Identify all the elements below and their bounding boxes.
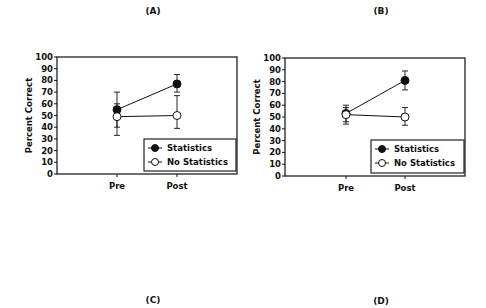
y-tick-label: 30: [269, 136, 281, 146]
series-line: [117, 116, 177, 117]
open-circle-marker: [173, 112, 181, 120]
y-tick-label: 90: [269, 65, 281, 75]
open-circle-marker: [379, 160, 386, 167]
x-tick-label: Post: [394, 183, 415, 193]
series-statistics: [113, 75, 181, 128]
x-tick-label: Pre: [109, 181, 125, 191]
y-tick-label: 10: [269, 159, 281, 169]
panel-label-d: (D): [373, 296, 389, 306]
y-tick-label: 50: [269, 112, 281, 122]
filled-circle-marker: [152, 145, 159, 152]
x-tick-label: Post: [166, 181, 187, 191]
y-axis-title: Percent Correct: [252, 79, 262, 154]
y-tick-label: 80: [41, 75, 53, 85]
legend: StatisticsNo Statistics: [144, 139, 236, 171]
y-tick-label: 70: [41, 87, 53, 97]
y-tick-label: 80: [269, 77, 281, 87]
y-axis: 0102030405060708090100: [263, 53, 285, 181]
legend-label: No Statistics: [167, 157, 228, 167]
series-line: [346, 80, 405, 113]
legend-label: Statistics: [167, 143, 212, 153]
series-no-statistics: [113, 96, 181, 136]
open-circle-marker: [113, 113, 121, 121]
series-line: [117, 84, 177, 110]
x-axis: PrePost: [338, 176, 416, 193]
y-tick-label: 20: [41, 146, 53, 156]
chart-b: 0102030405060708090100Percent CorrectPre…: [243, 0, 486, 200]
series-statistics: [342, 71, 409, 122]
legend-label: Statistics: [394, 144, 439, 154]
series-line: [346, 115, 405, 117]
legend-label: No Statistics: [394, 158, 455, 168]
open-circle-marker: [401, 113, 409, 121]
y-tick-label: 40: [269, 124, 281, 134]
y-tick-label: 50: [41, 111, 53, 121]
filled-circle-marker: [379, 146, 386, 153]
legend: StatisticsNo Statistics: [371, 140, 464, 173]
panel-label-c: (C): [146, 295, 161, 305]
y-tick-label: 20: [269, 147, 281, 157]
chart-a: 0102030405060708090100Percent CorrectPre…: [0, 0, 243, 200]
y-tick-label: 10: [41, 157, 53, 167]
y-tick-label: 70: [269, 88, 281, 98]
filled-circle-marker: [401, 76, 409, 84]
y-tick-label: 100: [263, 53, 281, 63]
y-tick-label: 0: [275, 171, 281, 181]
y-tick-label: 100: [35, 52, 53, 62]
open-circle-marker: [342, 111, 350, 119]
y-tick-label: 90: [41, 64, 53, 74]
y-tick-label: 0: [47, 169, 53, 179]
y-axis-title: Percent Correct: [24, 78, 34, 153]
filled-circle-marker: [173, 80, 181, 88]
y-tick-label: 60: [41, 99, 53, 109]
open-circle-marker: [152, 159, 159, 166]
y-tick-label: 30: [41, 134, 53, 144]
y-tick-label: 40: [41, 122, 53, 132]
x-axis: PrePost: [109, 174, 188, 191]
y-axis: 0102030405060708090100: [35, 52, 57, 179]
x-tick-label: Pre: [338, 183, 354, 193]
y-tick-label: 60: [269, 100, 281, 110]
